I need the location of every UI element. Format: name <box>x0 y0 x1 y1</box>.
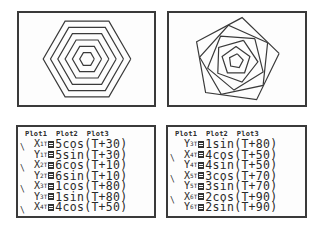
selected-equals-icon[interactable] <box>48 193 54 200</box>
line-style-icon: \ <box>20 164 25 175</box>
parametric-graph-plot <box>19 13 154 105</box>
variable-subscript: 1T <box>40 150 47 161</box>
line-style-icon: \ <box>20 143 25 154</box>
selected-equals-icon[interactable] <box>48 151 54 158</box>
selected-equals-icon[interactable] <box>198 204 204 211</box>
equation-list: Y3T1sin(T+80)\X4T4cos(T+50)Y4T4sin(T+50)… <box>171 139 305 213</box>
selected-equals-icon[interactable] <box>48 204 54 211</box>
selected-equals-icon[interactable] <box>48 172 54 179</box>
line-style-icon: \ <box>170 175 175 186</box>
selected-equals-icon[interactable] <box>48 141 54 148</box>
line-style-icon: \ <box>20 185 25 196</box>
line-style-icon: \ <box>170 154 175 165</box>
selected-equals-icon[interactable] <box>48 183 54 190</box>
equation-expression[interactable]: 2sin(T+90) <box>205 202 277 213</box>
parametric-curve <box>80 53 95 66</box>
equation-row[interactable]: Y6T2sin(T+90) <box>171 202 305 213</box>
y-equals-editor-right: Plot1 Plot2 Plot3 Y3T1sin(T+80)\X4T4cos(… <box>166 125 307 218</box>
variable-subscript: 4T <box>40 202 47 213</box>
selected-equals-icon[interactable] <box>198 172 204 179</box>
parametric-curve <box>43 21 131 97</box>
y-equals-editor-left: Plot1 Plot2 Plot3 \X1T5cos(T+30)Y1T5sin(… <box>16 125 156 218</box>
parametric-curve <box>65 40 109 78</box>
selected-equals-icon[interactable] <box>198 193 204 200</box>
selected-equals-icon[interactable] <box>48 162 54 169</box>
variable-subscript: 6T <box>190 192 197 203</box>
variable-subscript: 6T <box>190 202 197 213</box>
line-style-icon: \ <box>170 196 175 207</box>
variable-subscript: 4T <box>190 150 197 161</box>
variable-subscript: 3T <box>40 192 47 203</box>
variable-subscript: 2T <box>40 160 47 171</box>
selected-equals-icon[interactable] <box>198 162 204 169</box>
parametric-curve <box>51 27 124 90</box>
selected-equals-icon[interactable] <box>198 141 204 148</box>
parametric-curve <box>200 25 268 94</box>
parametric-curve <box>230 54 244 68</box>
variable-subscript: 2T <box>40 171 47 182</box>
parametric-curve <box>208 36 263 90</box>
graph-screen-rotated-polygons <box>167 11 307 107</box>
variable-subscript: 3T <box>190 139 197 150</box>
graph-screen-hexagons <box>17 11 156 107</box>
variable-subscript: 1T <box>40 139 47 150</box>
variable-subscript: 3T <box>40 181 47 192</box>
equation-row[interactable]: \X4T4cos(T+50) <box>21 202 154 213</box>
selected-equals-icon[interactable] <box>198 151 204 158</box>
variable-subscript: 5T <box>190 171 197 182</box>
parametric-graph-plot <box>169 13 305 105</box>
variable-subscript: 5T <box>190 181 197 192</box>
selected-equals-icon[interactable] <box>198 183 204 190</box>
equation-expression[interactable]: 4cos(T+50) <box>55 202 127 213</box>
line-style-icon: \ <box>20 206 25 217</box>
variable-subscript: 4T <box>190 160 197 171</box>
parametric-curve <box>222 46 250 72</box>
equation-list: \X1T5cos(T+30)Y1T5sin(T+30)\X2T6cos(T+10… <box>21 139 154 213</box>
parametric-curve <box>72 46 101 71</box>
parametric-curve <box>58 34 116 85</box>
